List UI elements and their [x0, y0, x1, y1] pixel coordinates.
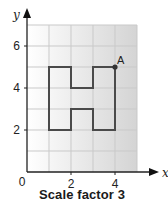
figure-caption: Scale factor 3 — [0, 187, 164, 202]
y-tick-label: 2 — [13, 123, 20, 137]
y-tick-label: 4 — [13, 81, 20, 95]
y-axis-arrow-icon — [23, 8, 31, 18]
point-label: A — [117, 54, 125, 66]
y-axis-label: y — [12, 8, 20, 22]
coordinate-grid-figure: xy024246 A — [0, 0, 168, 206]
x-axis-label: x — [162, 166, 168, 180]
y-tick-label: 6 — [13, 39, 20, 53]
grid-background — [27, 25, 137, 172]
x-axis-arrow-icon — [149, 168, 159, 176]
